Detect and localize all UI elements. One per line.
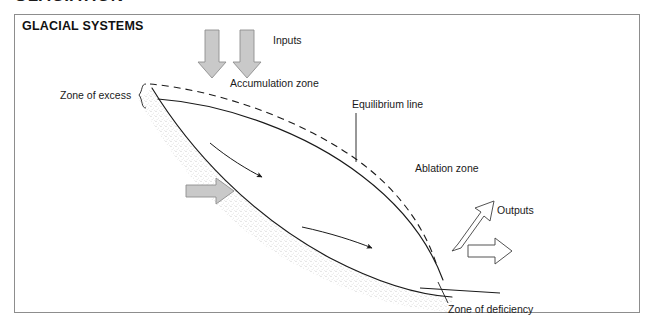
figure-box-title: GLACIAL SYSTEMS	[22, 19, 144, 33]
cut-off-page-heading: GLACIATION	[14, 0, 124, 2]
figure-box	[14, 14, 640, 313]
glacial-systems-figure: GLACIATION GLACIAL SYSTEMS	[0, 0, 653, 324]
